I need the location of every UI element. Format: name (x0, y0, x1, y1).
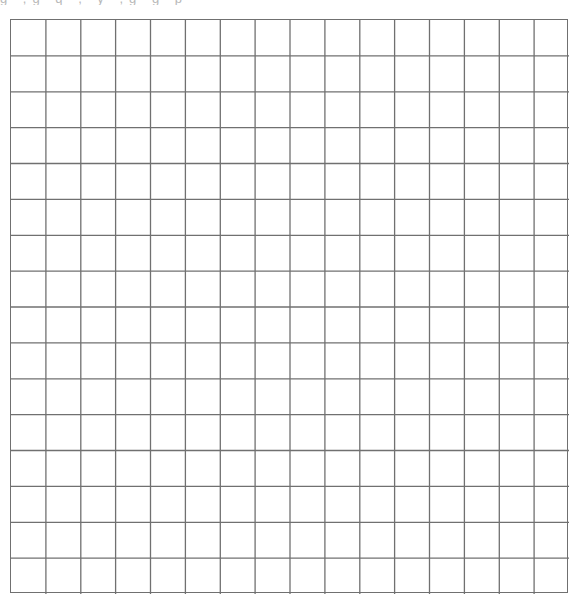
grid-lines (11, 20, 569, 594)
cropped-text-descenders: g ,g q , y ,g g p (0, 0, 579, 5)
blank-grid (10, 19, 568, 593)
